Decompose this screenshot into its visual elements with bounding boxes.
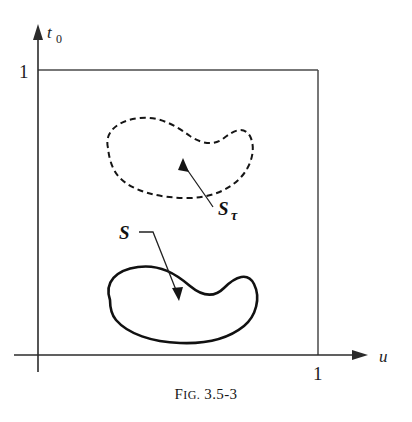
x-axis-tick-label-1: 1 xyxy=(313,363,323,384)
figure-canvas: t 0 u 1 1 S τ xyxy=(0,0,412,422)
x-axis-label: u xyxy=(379,347,388,366)
y-axis-label-group: t 0 xyxy=(47,23,62,46)
x-axis-label-group: u xyxy=(379,347,388,366)
region-s-tau-label-group: S τ xyxy=(218,198,238,223)
region-s-label-group: S xyxy=(119,222,130,243)
figure-caption: FIG. 3.5-3 xyxy=(0,386,412,403)
x-axis-arrowhead xyxy=(352,350,368,360)
region-s-tau-label-subscript: τ xyxy=(231,208,238,223)
region-s-tau-label: S xyxy=(218,198,229,219)
caption-prefix-letter: F xyxy=(174,386,183,402)
caption-number: 3.5-3 xyxy=(204,386,237,402)
region-s-shape xyxy=(98,255,278,355)
figure-container: t 0 u 1 1 S τ xyxy=(0,0,412,422)
y-axis-label: t xyxy=(47,23,53,42)
region-s-tau-outline xyxy=(107,118,253,198)
caption-prefix-rest: IG. xyxy=(183,388,200,402)
y-axis-label-subscript: 0 xyxy=(56,32,62,46)
y-axis-tick-label-1: 1 xyxy=(19,61,29,82)
region-s-outline xyxy=(108,266,257,343)
y-axis-arrowhead xyxy=(33,24,43,40)
region-s-label: S xyxy=(119,222,130,243)
